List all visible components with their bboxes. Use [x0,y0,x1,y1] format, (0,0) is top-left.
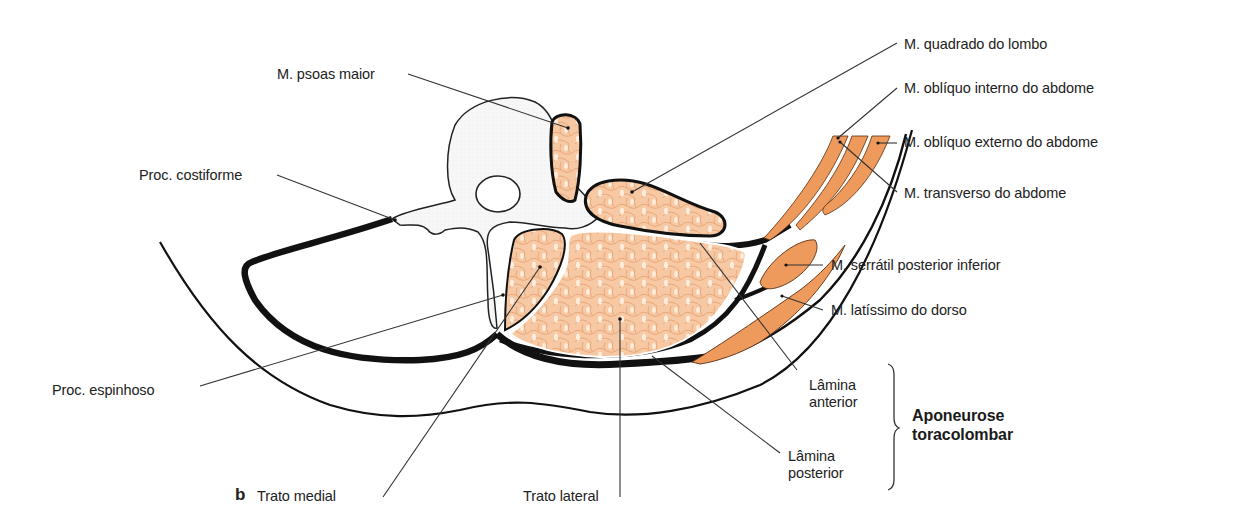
label-medial-tract: Trato medial [257,488,336,505]
cross-section-drawing [0,0,1256,526]
panel-letter: b [235,485,245,505]
label-anterior-lamina-line1: Lâmina [809,377,879,394]
label-posterior-lamina-line2: posterior [788,465,858,482]
label-quadratus-lumborum: M. quadrado do lombo [904,36,1047,53]
label-serratus-posterior-inferior: M. serrátil posterior inferior [831,257,1000,274]
quadratus-lumborum-muscle [585,180,725,236]
label-psoas-major: M. psoas maior [277,66,375,83]
label-thoracolumbar-line2: toracolombar [912,425,1013,444]
anatomy-figure: M. psoas maior Proc. costiforme Proc. es… [0,0,1256,526]
label-lateral-tract: Trato lateral [523,488,599,505]
serratus-posterior-inferior-muscle [760,240,817,289]
label-posterior-lamina: Lâmina posterior [788,448,858,482]
label-anterior-lamina: Lâmina anterior [809,377,879,411]
curly-brace [888,364,899,490]
label-thoracolumbar-aponeurosis: Aponeurose toracolombar [912,406,1013,444]
vertebral-foramen [476,176,520,212]
label-anterior-lamina-line2: anterior [809,394,879,411]
label-internal-oblique: M. oblíquo interno do abdome [904,80,1094,97]
label-spinous-process: Proc. espinhoso [52,382,154,399]
label-thoracolumbar-line1: Aponeurose [912,406,1013,425]
label-transverse-abdominis: M. transverso do abdome [904,185,1066,202]
label-costiform-process: Proc. costiforme [139,167,242,184]
label-latissimus-dorsi: M. latíssimo do dorso [831,302,967,319]
label-external-oblique: M. oblíquo externo do abdome [904,134,1098,151]
fascia-posterior-left [245,219,497,360]
label-posterior-lamina-line1: Lâmina [788,448,858,465]
